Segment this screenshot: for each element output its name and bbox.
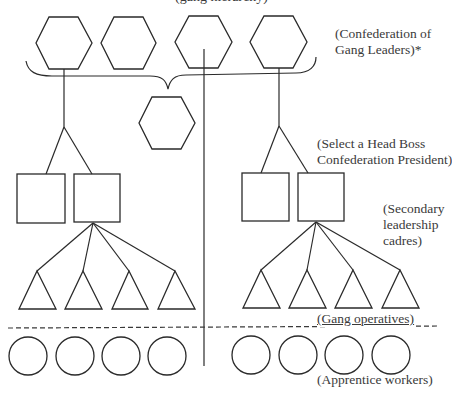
apprentice-circle-8 <box>372 336 410 374</box>
left-connector-4 <box>93 223 175 271</box>
gang-leader-hexagon-1 <box>36 17 92 69</box>
right-fork-line-2 <box>279 126 308 173</box>
operative-triangle-5 <box>243 270 280 308</box>
label-gang-operatives: (Gang operatives) <box>317 311 414 327</box>
label-line: Confederation President) <box>317 152 452 168</box>
apprentice-circle-3 <box>102 337 140 375</box>
label-line: cadres) <box>383 233 444 249</box>
gang-leader-hexagons <box>36 16 307 69</box>
label-apprentice-workers: (Apprentice workers) <box>317 372 433 388</box>
label-line: leadership <box>383 217 444 233</box>
gang-leader-hexagon-4 <box>250 16 307 68</box>
apprentice-circle-5 <box>232 336 270 374</box>
label-secondary-leadership-cadres: (Secondary leadership cadres) <box>383 201 444 249</box>
operative-triangle-1 <box>19 271 56 309</box>
apprentice-circle-1 <box>9 337 47 375</box>
secondary-square-2 <box>74 174 120 222</box>
operative-triangle-8 <box>382 270 419 308</box>
label-line: Gang Leaders)* <box>335 42 431 58</box>
secondary-square-3 <box>242 173 289 221</box>
label-line: (Confederation of <box>335 26 431 42</box>
operative-triangle-7 <box>335 270 372 308</box>
left-fork-line-1 <box>46 127 64 174</box>
apprentice-circle-2 <box>56 337 94 375</box>
secondary-square-1 <box>17 174 65 223</box>
operative-triangle-6 <box>289 270 326 308</box>
label-confederation-of-gang-leaders: (Confederation of Gang Leaders)* <box>335 26 431 58</box>
label-line: (Secondary <box>383 201 444 217</box>
label-line: (Select a Head Boss <box>317 136 452 152</box>
right-branch <box>242 68 419 308</box>
left-fork-line-2 <box>64 127 92 174</box>
apprentice-circle-6 <box>279 336 317 374</box>
grouping-brace <box>26 57 316 89</box>
left-branch <box>17 69 195 309</box>
left-connector-3 <box>93 223 129 271</box>
operative-triangle-4 <box>158 271 195 309</box>
operative-triangle-3 <box>112 271 148 309</box>
confederation-president-hexagon <box>139 97 195 149</box>
apprentice-circle-4 <box>148 337 186 375</box>
apprentice-circle-7 <box>325 336 363 374</box>
right-connector-3 <box>316 222 353 270</box>
right-fork-line-1 <box>261 126 279 173</box>
apprentice-circles <box>9 336 410 375</box>
gang-leader-hexagon-2 <box>101 17 156 69</box>
label-head-boss-president: (Select a Head Boss Confederation Presid… <box>317 136 452 168</box>
operative-triangle-2 <box>65 271 102 309</box>
secondary-square-4 <box>298 173 344 221</box>
